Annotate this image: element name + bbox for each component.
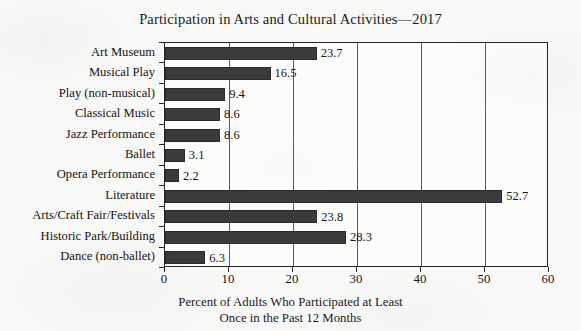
category-label: Literature xyxy=(105,185,155,205)
category-label: Dance (non-ballet) xyxy=(60,247,155,267)
category-label: Art Museum xyxy=(91,42,155,62)
category-label: Ballet xyxy=(125,144,155,164)
bar-value-label: 28.3 xyxy=(350,231,372,244)
bar xyxy=(165,231,346,244)
x-axis-tick-label-40: 40 xyxy=(400,272,440,287)
bar-row: 16.5 xyxy=(165,63,547,83)
category-label: Historic Park/Building xyxy=(41,226,155,246)
bar-row: 28.3 xyxy=(165,227,547,247)
bar xyxy=(165,67,271,80)
bar xyxy=(165,251,205,264)
x-axis-tick-label-50: 50 xyxy=(464,272,504,287)
bar-row: 6.3 xyxy=(165,248,547,268)
bar-row: 3.1 xyxy=(165,145,547,165)
bar-value-label: 23.8 xyxy=(321,211,343,224)
x-axis-tick-label-10: 10 xyxy=(208,272,248,287)
x-axis-tick-label-60: 60 xyxy=(528,272,568,287)
bar-value-label: 6.3 xyxy=(209,252,225,265)
bar-row: 2.2 xyxy=(165,166,547,186)
bar-value-label: 2.2 xyxy=(183,170,199,183)
x-axis-tick-label-30: 30 xyxy=(336,272,376,287)
bar-chart-figure: Participation in Arts and Cultural Activ… xyxy=(0,0,581,331)
x-axis-caption-line-2: Once in the Past 12 Months xyxy=(0,310,581,326)
bar-row: 8.6 xyxy=(165,104,547,124)
bar-value-label: 8.6 xyxy=(224,129,240,142)
plot-area: 23.716.59.48.68.63.12.252.723.828.36.3 xyxy=(164,42,548,267)
category-label: Opera Performance xyxy=(57,165,155,185)
bar xyxy=(165,149,185,162)
bar-value-label: 16.5 xyxy=(275,67,297,80)
category-label: Classical Music xyxy=(75,103,155,123)
bar-row: 23.8 xyxy=(165,207,547,227)
bar-value-label: 52.7 xyxy=(506,190,528,203)
bar xyxy=(165,47,317,60)
bar-row: 8.6 xyxy=(165,125,547,145)
x-axis-caption: Percent of Adults Who Participated at Le… xyxy=(0,294,581,326)
bar xyxy=(165,210,317,223)
category-label: Jazz Performance xyxy=(66,124,155,144)
bar-value-label: 3.1 xyxy=(189,149,205,162)
x-axis-tick-label-20: 20 xyxy=(272,272,312,287)
bar-row: 52.7 xyxy=(165,186,547,206)
category-label: Arts/Craft Fair/Festivals xyxy=(32,206,155,226)
bar-value-label: 8.6 xyxy=(224,108,240,121)
bar-value-label: 9.4 xyxy=(229,88,245,101)
bar xyxy=(165,190,502,203)
bar-row: 9.4 xyxy=(165,84,547,104)
x-axis-tick-label-0: 0 xyxy=(144,272,184,287)
category-axis-labels: Art MuseumMusical PlayPlay (non-musical)… xyxy=(0,42,160,267)
x-axis-caption-line-1: Percent of Adults Who Participated at Le… xyxy=(0,294,581,310)
bar xyxy=(165,88,225,101)
category-label: Musical Play xyxy=(89,62,155,82)
bar-value-label: 23.7 xyxy=(321,47,343,60)
bar xyxy=(165,169,179,182)
bar xyxy=(165,129,220,142)
bar-rows: 23.716.59.48.68.63.12.252.723.828.36.3 xyxy=(165,43,547,266)
bar xyxy=(165,108,220,121)
bar-row: 23.7 xyxy=(165,43,547,63)
chart-title: Participation in Arts and Cultural Activ… xyxy=(0,11,581,28)
category-label: Play (non-musical) xyxy=(59,83,155,103)
